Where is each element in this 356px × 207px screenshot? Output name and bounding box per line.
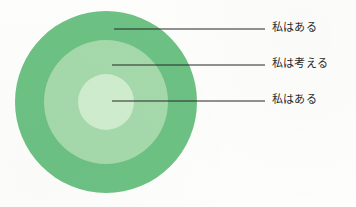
diagram-canvas: 私はある 私は考える 私はある	[0, 0, 356, 207]
inner-circle-circle	[78, 74, 134, 130]
middle-ring-label: 私は考える	[272, 58, 328, 70]
inner-circle-label: 私はある	[272, 94, 317, 106]
outer-ring-label: 私はある	[272, 22, 317, 34]
